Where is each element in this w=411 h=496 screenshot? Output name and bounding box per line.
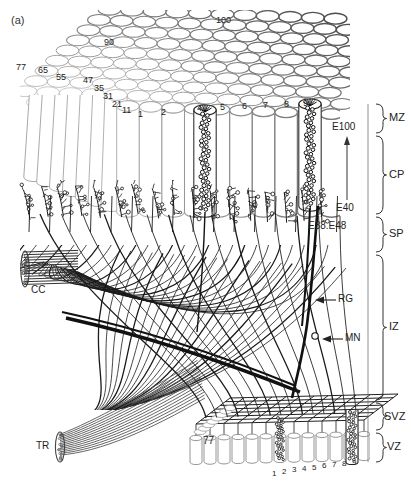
vz-row-number-9: 9	[352, 459, 356, 467]
vz-row-number-7: 7	[332, 461, 336, 469]
embryonic-day-subplate: E38.E48	[308, 221, 346, 231]
front-row-number-4: 4	[197, 104, 202, 113]
thalamic-radiation-bundle	[55, 360, 205, 462]
vz-row-number-8: 8	[342, 460, 346, 468]
vz-row-number-6: 6	[322, 462, 326, 470]
label-cc: CC	[31, 285, 45, 295]
unit-number-100: 100	[216, 16, 231, 25]
front-row-number-5: 5	[220, 103, 225, 112]
vz-row-number-4: 4	[302, 465, 306, 473]
front-row-number-7: 7	[263, 101, 268, 110]
embryonic-day-bottom: E40	[336, 203, 354, 213]
label-mn: MN	[345, 333, 361, 343]
unit-number-55: 55	[56, 73, 66, 82]
unit-number-47: 47	[83, 76, 93, 85]
zone-label-cp: CP	[389, 169, 404, 180]
zone-label-sp: SP	[389, 228, 404, 239]
front-row-number-2: 2	[161, 108, 166, 117]
zone-label-vz: VZ	[387, 441, 401, 452]
unit-number-65: 65	[38, 66, 48, 75]
figure-panel: (a) 77 65 55 47 35 31 21 11 90 100 1 2 4…	[0, 0, 411, 496]
unit-number-90: 90	[104, 38, 114, 47]
front-row-number-9: 9	[303, 99, 308, 108]
front-row-number-6: 6	[242, 102, 247, 111]
vz-row-number-5: 5	[312, 464, 316, 472]
embryonic-day-top: E100	[332, 122, 355, 132]
zone-label-svz: SVZ	[384, 411, 405, 422]
unit-number-21: 21	[112, 100, 122, 109]
vz-row-number-1: 1	[272, 470, 276, 478]
label-tr: TR	[36, 441, 49, 451]
ventricular-zone-columns	[190, 405, 370, 464]
corpus-callosum-bundle	[21, 250, 78, 287]
zone-label-iz: IZ	[389, 321, 399, 332]
zone-brackets	[368, 104, 387, 462]
migrating-neuron-soma	[312, 333, 318, 339]
embryonic-day-arrow	[344, 136, 350, 200]
front-row-number-1: 1	[138, 110, 143, 119]
unit-number-77: 77	[16, 63, 26, 72]
front-row-number-8: 8	[284, 100, 289, 109]
vz-row-number-3: 3	[292, 466, 296, 474]
vz-row-number-2: 2	[282, 468, 286, 476]
unit-number-11: 11	[122, 106, 131, 115]
zone-label-mz: MZ	[389, 112, 405, 123]
panel-label: (a)	[11, 15, 24, 26]
label-rg: RG	[338, 294, 353, 304]
vz-unit-number: 77	[203, 436, 214, 446]
